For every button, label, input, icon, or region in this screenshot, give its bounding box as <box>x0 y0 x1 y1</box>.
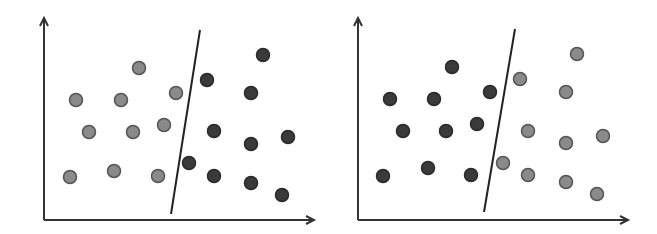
dark-point <box>384 93 397 106</box>
light-point <box>133 62 146 75</box>
dark-point <box>471 118 484 131</box>
dark-point <box>282 131 295 144</box>
panel-left <box>40 18 314 224</box>
light-point <box>522 125 535 138</box>
dark-point <box>465 169 478 182</box>
light-point <box>522 169 535 182</box>
dark-point <box>422 162 435 175</box>
decision-boundary <box>171 30 200 214</box>
light-point <box>597 130 610 143</box>
light-point <box>158 119 171 132</box>
dark-point <box>257 49 270 62</box>
light-point <box>571 48 584 61</box>
light-point <box>152 170 165 183</box>
light-point <box>560 86 573 99</box>
light-point <box>170 87 183 100</box>
light-point <box>115 94 128 107</box>
dark-point <box>397 125 410 138</box>
dark-point <box>245 138 258 151</box>
dark-point <box>245 177 258 190</box>
light-point <box>127 126 140 139</box>
dark-point <box>183 157 196 170</box>
light-point <box>591 188 604 201</box>
light-point <box>64 171 77 184</box>
light-point <box>108 165 121 178</box>
dark-point <box>377 170 390 183</box>
dark-point <box>276 189 289 202</box>
panel-right <box>354 18 628 224</box>
light-point <box>560 176 573 189</box>
dark-point <box>484 86 497 99</box>
dark-point <box>428 93 441 106</box>
decision-boundary <box>484 29 515 212</box>
dark-point <box>446 61 459 74</box>
dark-point <box>208 125 221 138</box>
light-point <box>83 126 96 139</box>
light-point <box>514 73 527 86</box>
dark-point <box>245 87 258 100</box>
dark-point <box>440 125 453 138</box>
light-point <box>560 137 573 150</box>
classification-diagram <box>0 0 657 234</box>
light-point <box>70 94 83 107</box>
dark-point <box>201 74 214 87</box>
dark-point <box>208 170 221 183</box>
light-point <box>497 157 510 170</box>
